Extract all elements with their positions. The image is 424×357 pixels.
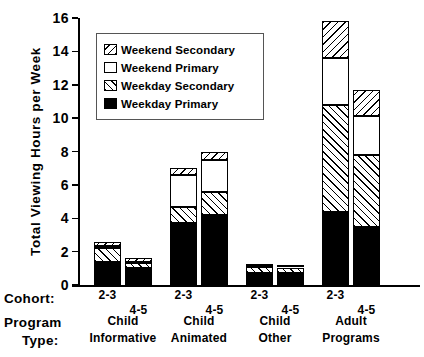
bar-segment-weekday-secondary	[353, 155, 380, 227]
bar-segment-weekend-secondary	[353, 90, 380, 117]
bar-segment-weekday-secondary	[94, 248, 121, 261]
bar-segment-weekend-secondary	[125, 258, 152, 261]
legend-label: Weekday Primary	[121, 98, 218, 110]
legend-label: Weekday Secondary	[121, 80, 234, 92]
group-label-programs: Programs	[322, 330, 380, 347]
bar-segment-weekday-secondary	[322, 105, 349, 212]
legend-swatch-backslash-hatch-icon	[104, 44, 117, 55]
bar-segment-weekend-secondary	[322, 21, 349, 58]
y-tick-12	[72, 84, 78, 86]
group-label-other: Child	[260, 313, 291, 330]
y-tick-label-14: 14	[52, 43, 69, 59]
cohort-row-header: Cohort:	[4, 291, 55, 306]
bar-informative-2-3	[94, 242, 121, 285]
program-row-header-line1: Program	[4, 315, 62, 330]
bar-other-4-5	[277, 266, 304, 285]
bar-segment-weekend-secondary	[277, 265, 304, 267]
y-axis-title: Total Viewing Hours per Week	[28, 13, 43, 291]
y-tick-10	[72, 117, 78, 119]
bar-other-2-3	[246, 265, 273, 285]
y-axis-line	[78, 18, 80, 285]
cohort-label-animated-2-3: 2-3	[175, 288, 193, 302]
y-tick-label-6: 6	[61, 177, 69, 193]
bar-animated-2-3	[170, 168, 197, 285]
y-tick-14	[72, 51, 78, 53]
bar-animated-4-5	[201, 152, 228, 286]
bar-segment-weekend-primary	[201, 160, 228, 192]
bar-segment-weekend-primary	[94, 246, 121, 249]
bar-segment-weekday-secondary	[201, 192, 228, 215]
y-tick-16	[72, 17, 78, 19]
bar-programs-2-3	[322, 21, 349, 285]
group-label-animated: Child	[184, 313, 215, 330]
bar-informative-4-5	[125, 258, 152, 285]
legend-swatch-forwardslash-hatch-icon	[104, 80, 117, 91]
bar-programs-4-5	[353, 90, 380, 285]
bar-segment-weekend-primary	[170, 175, 197, 207]
group-label-other: Other	[258, 330, 291, 347]
y-tick-label-4: 4	[61, 210, 69, 226]
bar-segment-weekday-primary	[125, 268, 152, 285]
y-tick-0	[72, 284, 78, 286]
y-tick-8	[72, 151, 78, 153]
chart-legend: Weekend SecondaryWeekend PrimaryWeekday …	[96, 33, 264, 120]
x-axis-line	[72, 285, 420, 287]
program-row-header-line2: Type:	[22, 333, 59, 348]
legend-item-weekday-primary: Weekday Primary	[104, 95, 257, 112]
y-tick-label-10: 10	[52, 110, 69, 126]
cohort-label-programs-2-3: 2-3	[327, 288, 345, 302]
bar-segment-weekend-secondary	[201, 152, 228, 160]
group-label-animated: Animated	[171, 330, 227, 347]
bar-segment-weekday-secondary	[125, 263, 152, 268]
y-tick-label-16: 16	[52, 10, 69, 26]
bar-segment-weekday-secondary	[246, 267, 273, 274]
legend-label: Weekend Primary	[121, 62, 219, 74]
y-tick-2	[72, 251, 78, 253]
bar-segment-weekday-secondary	[277, 268, 304, 274]
legend-item-weekday-secondary: Weekday Secondary	[104, 77, 257, 94]
legend-swatch-solid-black-icon	[104, 98, 117, 109]
legend-item-weekend-secondary: Weekend Secondary	[104, 41, 257, 58]
bar-segment-weekday-primary	[170, 223, 197, 285]
group-label-programs: Adult	[335, 313, 367, 330]
bar-segment-weekend-primary	[322, 58, 349, 105]
legend-item-weekend-primary: Weekend Primary	[104, 59, 257, 76]
bar-segment-weekday-secondary	[170, 207, 197, 224]
cohort-label-informative-2-3: 2-3	[99, 288, 117, 302]
bar-segment-weekend-secondary	[94, 242, 121, 246]
bar-segment-weekday-primary	[353, 227, 380, 285]
chart-root: Total Viewing Hours per Week 02468101214…	[0, 0, 424, 357]
y-tick-label-2: 2	[61, 244, 69, 260]
y-tick-6	[72, 184, 78, 186]
legend-swatch-solid-white-icon	[104, 62, 117, 73]
bar-segment-weekday-primary	[246, 273, 273, 285]
y-tick-4	[72, 218, 78, 220]
y-tick-label-12: 12	[52, 77, 69, 93]
group-label-informative: Child	[108, 313, 139, 330]
bar-segment-weekday-primary	[322, 212, 349, 285]
group-label-informative: Informative	[90, 330, 157, 347]
cohort-label-other-2-3: 2-3	[251, 288, 269, 302]
legend-label: Weekend Secondary	[121, 44, 235, 56]
y-tick-label-0: 0	[61, 277, 69, 293]
y-tick-label-8: 8	[61, 144, 69, 160]
bar-segment-weekday-primary	[277, 273, 304, 285]
bar-segment-weekend-primary	[353, 116, 380, 154]
bar-segment-weekday-primary	[94, 262, 121, 285]
bar-segment-weekday-primary	[201, 215, 228, 285]
bar-segment-weekend-secondary	[170, 168, 197, 175]
bar-segment-weekend-secondary	[246, 264, 273, 266]
